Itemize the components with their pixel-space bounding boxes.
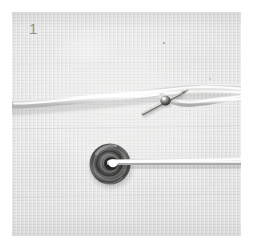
lower-cord-group <box>108 159 241 167</box>
dust-speck <box>209 78 211 80</box>
figure-root: 1 <box>0 0 253 251</box>
photo-subject-overlay <box>12 12 241 236</box>
photograph-plate: 1 <box>12 12 241 236</box>
upper-cord-group <box>12 84 241 111</box>
lower-cord-at-bore <box>108 159 117 167</box>
panel-number-label: 1 <box>29 21 37 36</box>
dust-speck <box>163 42 165 44</box>
pin-head-shadow <box>162 103 172 107</box>
pin-head-specular <box>162 97 166 100</box>
